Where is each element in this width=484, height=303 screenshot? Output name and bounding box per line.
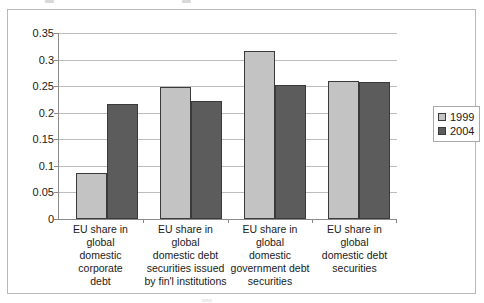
y-axis-label-0.35: 0.35 [33, 28, 54, 39]
category-label-domestic-debt-securities: EU share in global domestic debt securit… [312, 223, 397, 275]
category-label-line: by fin'l institutions [143, 275, 228, 288]
plot-area [58, 33, 397, 219]
y-axis-label-0.25: 0.25 [33, 81, 54, 92]
category-label-line: debt [58, 275, 143, 288]
bar-2004-corporate-debt[interactable] [107, 104, 138, 219]
bar-1999-domestic-debt-securities[interactable] [328, 81, 359, 219]
bar-2004-domestic-debt-securities[interactable] [359, 82, 390, 219]
legend-label-1999: 1999 [450, 112, 474, 123]
category-label-government-debt: EU share in global domestic government d… [228, 223, 312, 288]
y-tick-0 [54, 219, 58, 220]
chart-frame: 0.35 0.3 0.25 0.2 0.15 0.1 0.05 0 [7, 9, 476, 294]
y-tick-0.1 [54, 166, 58, 167]
y-tick-0.2 [54, 113, 58, 114]
bar-2004-government-debt[interactable] [275, 85, 306, 219]
legend-swatch-icon-2004 [438, 127, 446, 135]
chart-legend[interactable]: 1999 2004 [433, 106, 480, 142]
category-label-line: securities [312, 262, 397, 275]
category-label-financial-institutions-debt: EU share in global domestic debt securit… [143, 223, 228, 288]
y-axis-label-0.1: 0.1 [39, 160, 54, 171]
category-label-line: domestic [228, 249, 312, 262]
bar-1999-government-debt[interactable] [244, 51, 275, 220]
category-label-line: government debt [228, 262, 312, 275]
legend-swatch-icon-1999 [438, 113, 446, 121]
cropped-text-artifacts [0, 0, 484, 8]
y-axis-line [58, 33, 59, 219]
gridline-0.3 [58, 60, 397, 61]
category-label-line: EU share in global [58, 223, 143, 249]
y-axis-label-0.15: 0.15 [33, 134, 54, 145]
category-label-line: EU share in global [228, 223, 312, 249]
y-tick-0.35 [54, 33, 58, 34]
y-axis-label-0.3: 0.3 [39, 54, 54, 65]
category-label-line: securities [228, 275, 312, 288]
y-tick-0.25 [54, 86, 58, 87]
category-label-line: domestic debt [312, 249, 397, 262]
legend-item-1999[interactable]: 1999 [438, 110, 474, 124]
category-label-line: securities issued [143, 262, 228, 275]
y-axis-labels: 0.35 0.3 0.25 0.2 0.15 0.1 0.05 0 [8, 33, 54, 219]
y-tick-0.15 [54, 139, 58, 140]
gridline-0.35 [58, 33, 397, 34]
bar-1999-financial-institutions-debt[interactable] [160, 87, 191, 219]
legend-label-2004: 2004 [450, 126, 474, 137]
category-label-line: EU share in global [312, 223, 397, 249]
y-tick-0.3 [54, 60, 58, 61]
category-label-line: domestic debt [143, 249, 228, 262]
bar-1999-corporate-debt[interactable] [76, 173, 107, 219]
category-label-corporate-debt: EU share in global domestic corporate de… [58, 223, 143, 288]
category-label-line: domestic corporate [58, 249, 143, 275]
y-axis-label-0.05: 0.05 [33, 187, 54, 198]
y-tick-0.05 [54, 192, 58, 193]
category-label-line: EU share in global [143, 223, 228, 249]
y-axis-label-0.2: 0.2 [39, 107, 54, 118]
legend-item-2004[interactable]: 2004 [438, 124, 474, 138]
x-axis-category-labels: EU share in global domestic corporate de… [58, 223, 397, 291]
bar-2004-financial-institutions-debt[interactable] [191, 101, 222, 219]
cropped-text-artifact-bottom [202, 299, 212, 302]
